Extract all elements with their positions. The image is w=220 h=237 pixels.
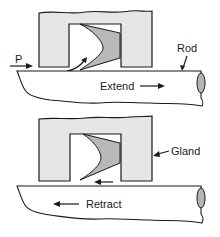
rod-end-upper: [197, 73, 205, 93]
seal-lower: [80, 134, 120, 180]
gland-leader-head: [153, 151, 160, 157]
gland-label: Gland: [171, 145, 200, 157]
gland-leader: [158, 151, 169, 154]
rod-end-lower: [197, 188, 205, 208]
rod-leader-head: [180, 65, 185, 71]
pressure-label: P: [15, 53, 22, 65]
extend-label: Extend: [100, 80, 134, 92]
leak-arrowhead: [81, 57, 87, 63]
rod-label: Rod: [177, 42, 197, 54]
seal-drag-arrowhead: [94, 179, 101, 185]
seal-diagram: P Rod Extend Gland Retract: [0, 0, 220, 237]
retract-label: Retract: [86, 198, 121, 210]
seal-upper: [80, 24, 120, 70]
retract-panel: Gland Retract: [17, 116, 205, 223]
pressure-arrowhead: [26, 63, 33, 69]
extend-panel: P Rod Extend: [10, 11, 205, 106]
